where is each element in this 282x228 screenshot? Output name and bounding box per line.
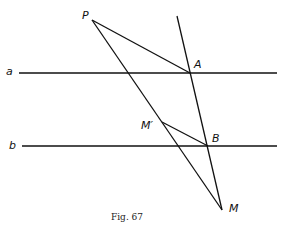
transversal-line xyxy=(177,16,222,210)
label-line-b: b xyxy=(9,140,16,151)
segment-PA xyxy=(92,20,190,73)
label-line-a: a xyxy=(6,66,13,77)
diagram-lines xyxy=(0,0,282,228)
label-M-prime: M′ xyxy=(141,120,153,131)
segment-MprimeB xyxy=(162,122,208,146)
label-A: A xyxy=(194,59,202,70)
label-P: P xyxy=(82,10,89,21)
label-M: M xyxy=(229,203,239,214)
segment-PM xyxy=(92,20,222,210)
geometry-figure: P A a M′ B b M Fig. 67 xyxy=(0,0,282,228)
figure-caption: Fig. 67 xyxy=(111,213,143,222)
label-B: B xyxy=(212,133,220,144)
